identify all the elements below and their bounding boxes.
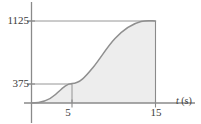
x-axis-title: t (s) [176,96,192,106]
x-axis-tick-label-5: 5 [60,107,76,118]
y-axis-tick-label-1125: 1125 [0,15,29,26]
chart-plot-area [0,0,201,124]
x-axis-title-variable: t [176,95,179,106]
chart-figure: 1125 375 5 15 t (s) [0,0,201,124]
x-axis-tick-label-15: 15 [147,107,165,118]
shaded-area-under-curve [32,21,156,103]
y-axis-tick-label-375: 375 [0,78,29,89]
x-axis-title-unit: (s) [181,95,192,106]
